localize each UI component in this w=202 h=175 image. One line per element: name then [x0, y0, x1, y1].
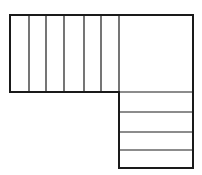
stair-plan-diagram: [0, 0, 202, 175]
stair-outline: [10, 15, 193, 168]
